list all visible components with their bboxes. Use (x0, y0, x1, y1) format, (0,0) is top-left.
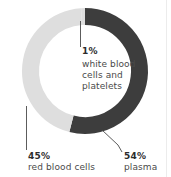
label-white-blood-cells-percent: 1% (82, 46, 136, 57)
label-white-blood-cells: 1% white blood cells and platelets (82, 46, 136, 92)
leader-line-plasma (102, 130, 122, 152)
label-white-blood-cells-line2: cells and (82, 70, 136, 81)
slice-red-blood-cells-arc (31, 17, 82, 124)
label-white-blood-cells-line3: platelets (82, 81, 136, 92)
label-plasma-description: plasma (124, 162, 157, 173)
label-red-blood-cells-description: red blood cells (28, 162, 95, 173)
donut-chart-figure: 1% white blood cells and platelets 45% r… (0, 0, 171, 177)
label-plasma: 54% plasma (124, 151, 157, 173)
label-plasma-percent: 54% (124, 151, 157, 162)
label-red-blood-cells-percent: 45% (28, 151, 95, 162)
label-red-blood-cells: 45% red blood cells (28, 151, 95, 173)
label-white-blood-cells-description: white blood cells and platelets (82, 59, 136, 92)
label-white-blood-cells-line1: white blood (82, 59, 136, 70)
